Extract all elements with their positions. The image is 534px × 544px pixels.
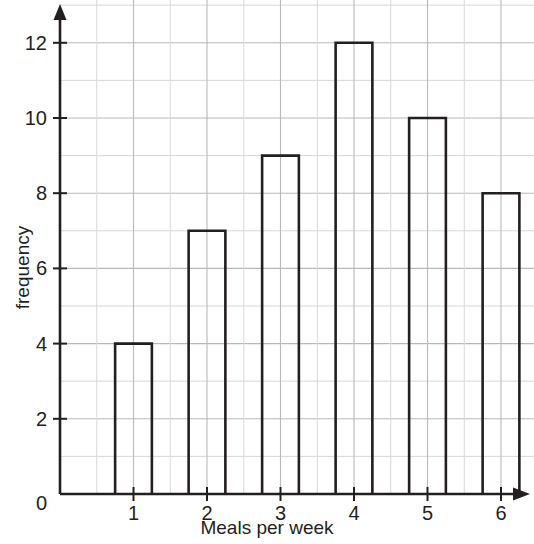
y-axis-tick-label: 10 <box>0 108 47 128</box>
chart-canvas <box>0 0 534 544</box>
y-axis-tick-label: 8 <box>0 183 47 203</box>
y-axis-tick-label: 0 <box>0 493 47 513</box>
y-axis-title: frequency <box>13 208 32 328</box>
bar-chart: 121086420 123456 Meals per week frequenc… <box>0 0 534 544</box>
y-axis-tick-label: 12 <box>0 33 47 53</box>
horizontal-minor-gridlines <box>60 5 534 456</box>
x-axis-title: Meals per week <box>0 518 534 537</box>
y-axis-tick-label: 2 <box>0 409 47 429</box>
axis-lines <box>54 4 531 501</box>
axis-tick-marks <box>53 43 501 501</box>
y-axis-arrowhead <box>54 4 67 20</box>
y-axis-tick-label: 4 <box>0 334 47 354</box>
x-axis-arrowhead <box>513 488 530 501</box>
